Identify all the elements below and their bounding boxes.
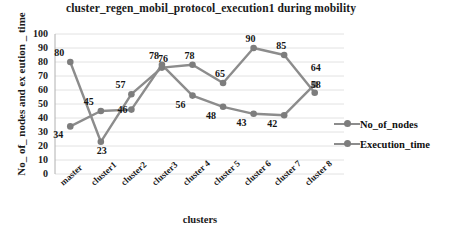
data-point-marker xyxy=(159,64,166,71)
legend-marker-icon xyxy=(334,118,360,130)
data-point-label: 85 xyxy=(276,41,286,51)
data-point-label: 58 xyxy=(311,80,321,90)
y-tick-label: 90 xyxy=(22,43,48,53)
y-tick-label: 100 xyxy=(22,29,48,39)
data-point-label: 56 xyxy=(176,100,186,110)
data-point-marker xyxy=(67,123,74,130)
y-tick-label: 70 xyxy=(22,71,48,81)
data-point-label: 45 xyxy=(84,97,94,107)
y-tick-label: 20 xyxy=(22,141,48,151)
data-point-marker xyxy=(189,92,196,99)
data-point-marker xyxy=(98,108,105,115)
data-point-label: 78 xyxy=(185,51,195,61)
data-point-label: 43 xyxy=(237,118,247,128)
legend-marker-icon xyxy=(334,138,360,150)
data-point-marker xyxy=(281,112,288,119)
data-point-label: 42 xyxy=(267,119,277,129)
chart-legend: No_of_nodes Execution_time xyxy=(334,114,449,154)
y-tick-label: 80 xyxy=(22,57,48,67)
data-point-label: 34 xyxy=(53,130,63,140)
y-tick-label: 30 xyxy=(22,127,48,137)
y-tick-label: 0 xyxy=(22,169,48,179)
data-point-marker xyxy=(250,45,257,52)
data-point-marker xyxy=(189,62,196,69)
data-point-marker xyxy=(311,90,318,97)
data-point-label: 57 xyxy=(115,80,125,90)
y-tick-label: 40 xyxy=(22,113,48,123)
legend-label: No_of_nodes xyxy=(360,119,418,130)
y-tick-label: 60 xyxy=(22,85,48,95)
data-point-label: 64 xyxy=(311,63,321,73)
x-axis-title: clusters xyxy=(55,214,345,225)
chart-container: cluster_regen_mobil_protocol_execution1 … xyxy=(0,0,453,240)
legend-label: Execution_time xyxy=(360,139,430,150)
data-point-marker xyxy=(67,59,74,66)
data-point-label: 65 xyxy=(215,69,225,79)
data-point-marker xyxy=(220,80,227,87)
data-point-marker xyxy=(220,104,227,111)
data-point-label: 23 xyxy=(97,146,107,156)
y-tick-label: 50 xyxy=(22,99,48,109)
data-point-label: 76 xyxy=(158,54,168,64)
data-point-marker xyxy=(128,106,135,113)
data-point-label: 90 xyxy=(246,34,256,44)
y-tick-label: 10 xyxy=(22,155,48,165)
data-point-marker xyxy=(281,52,288,59)
legend-item-execution-time[interactable]: Execution_time xyxy=(334,134,449,154)
legend-item-no-of-nodes[interactable]: No_of_nodes xyxy=(334,114,449,134)
data-point-marker xyxy=(128,91,135,98)
data-point-label: 48 xyxy=(206,111,216,121)
data-point-marker xyxy=(250,111,257,118)
data-point-label: 46 xyxy=(117,105,127,115)
data-point-label: 80 xyxy=(54,48,64,58)
